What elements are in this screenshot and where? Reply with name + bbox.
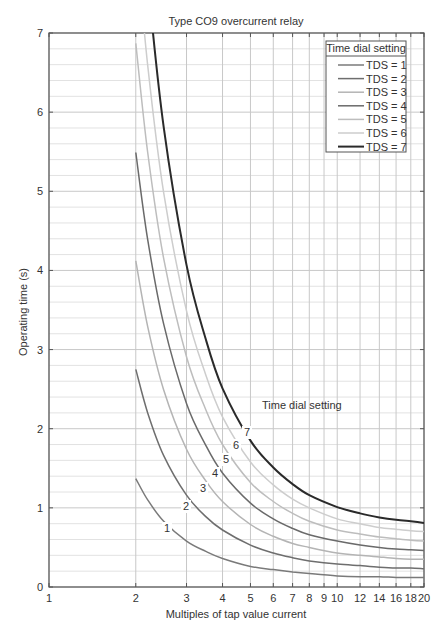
x-tick-label: 9 xyxy=(321,592,327,604)
y-tick-label: 5 xyxy=(37,185,43,197)
chart-title: Type CO9 overcurrent relay xyxy=(168,15,304,27)
annotation-label: 4 xyxy=(212,467,218,479)
y-tick-label: 3 xyxy=(37,344,43,356)
legend-entry: TDS = 1 xyxy=(366,59,407,71)
x-tick-label: 4 xyxy=(219,592,225,604)
annotation-label: 6 xyxy=(233,439,239,451)
legend-entry: TDS = 7 xyxy=(366,141,407,153)
x-tick-label: 16 xyxy=(390,592,402,604)
x-axis-label: Multiples of tap value current xyxy=(166,608,307,620)
y-tick-label: 1 xyxy=(37,502,43,514)
x-tick-label: 18 xyxy=(405,592,417,604)
y-axis-label: Operating time (s) xyxy=(17,268,29,356)
y-tick-label: 0 xyxy=(37,581,43,593)
y-tick-label: 7 xyxy=(37,27,43,39)
annotation-label: 1 xyxy=(164,522,170,534)
tds-chart: Type CO9 overcurrent relay 1234567891012… xyxy=(0,0,447,635)
x-tick-label: 1 xyxy=(46,592,52,604)
annotation-title: Time dial setting xyxy=(262,399,342,411)
x-tick-label: 6 xyxy=(270,592,276,604)
legend: Time dial settingTDS = 1TDS = 2TDS = 3TD… xyxy=(326,41,407,153)
x-tick-label: 5 xyxy=(247,592,253,604)
y-tick-label: 2 xyxy=(37,423,43,435)
annotation-label: 7 xyxy=(244,426,250,438)
legend-entry: TDS = 5 xyxy=(366,113,407,125)
x-tick-label: 14 xyxy=(373,592,385,604)
x-tick-label: 2 xyxy=(133,592,139,604)
x-tick-label: 20 xyxy=(418,592,430,604)
x-tick-label: 8 xyxy=(306,592,312,604)
legend-entry: TDS = 3 xyxy=(366,86,407,98)
x-tick-label: 3 xyxy=(183,592,189,604)
legend-entry: TDS = 6 xyxy=(366,127,407,139)
y-tick-label: 4 xyxy=(37,264,43,276)
x-tick-label: 7 xyxy=(290,592,296,604)
annotation-label: 5 xyxy=(223,453,229,465)
legend-title: Time dial setting xyxy=(326,42,406,54)
annotation-label: 2 xyxy=(183,500,189,512)
legend-entry: TDS = 2 xyxy=(366,73,407,85)
legend-entry: TDS = 4 xyxy=(366,100,407,112)
x-tick-label: 12 xyxy=(354,592,366,604)
annotation-label: 3 xyxy=(200,482,206,494)
annotation: 1234567Time dial setting xyxy=(162,399,342,535)
y-tick-label: 6 xyxy=(37,106,43,118)
x-tick-label: 10 xyxy=(331,592,343,604)
